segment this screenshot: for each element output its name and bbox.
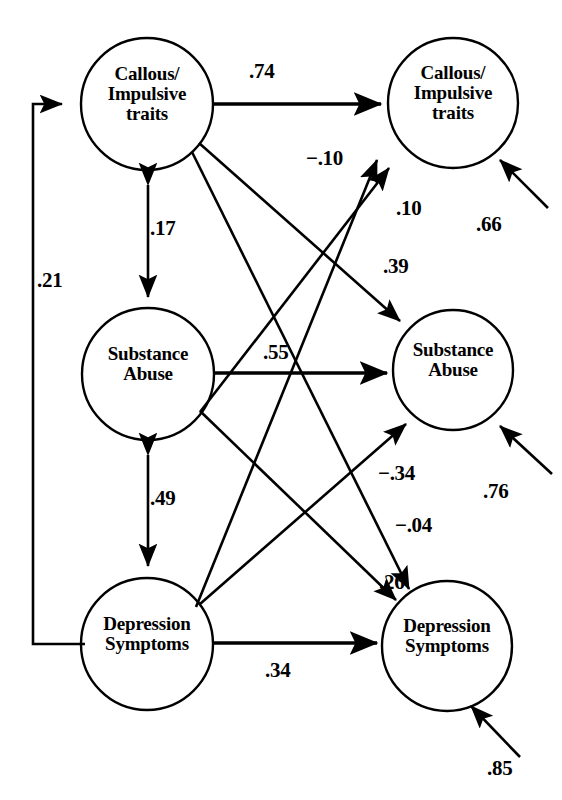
path-arrow-depression-to-substance [200,424,406,604]
path-arrow-callous-to-substance [199,143,400,321]
coefficient-label-correlation-substance-depression: .49 [150,486,175,511]
residual-arrow-t2-depression [471,706,520,757]
coefficient-label-residual-t2-substance: .76 [483,479,508,504]
coefficient-label-substance-to-callous: .10 [396,196,421,221]
coefficient-label-residual-t2-callous: .66 [476,212,501,237]
coefficient-label-residual-t2-depression: .85 [487,756,512,781]
coefficient-label-callous-to-depression: −.04 [395,513,432,538]
coefficient-label-substance-autoregressive: .55 [263,340,288,365]
node-t1-depression-symptoms[interactable] [81,578,213,710]
node-t2-depression-symptoms[interactable] [382,581,512,711]
path-diagram: Callous/ Impulsive traits Substance Abus… [0,0,562,800]
coefficient-label-callous-autoregressive: .74 [249,59,274,84]
residual-arrow-t2-substance [500,426,552,474]
coefficient-label-depression-to-callous: −.10 [306,146,343,171]
coefficient-label-depression-autoregressive: .34 [265,658,290,683]
path-arrow-callous-to-depression [192,152,409,589]
node-t2-substance-abuse[interactable] [393,310,513,430]
correlation-depression-callous-loop [33,104,85,644]
node-t2-callous-impulsive-traits[interactable] [388,38,518,168]
path-arrow-substance-to-callous [200,168,389,412]
residual-arrow-t2-callous [500,160,548,208]
coefficient-label-correlation-depression-callous: .21 [37,268,62,293]
coefficient-label-correlation-callous-substance: .17 [150,216,175,241]
coefficient-label-depression-to-substance: −.34 [378,461,415,486]
coefficient-label-callous-to-substance: .39 [383,254,408,279]
coefficient-label-substance-to-depression: .26 [379,570,404,595]
node-t1-substance-abuse[interactable] [82,308,214,440]
node-t1-callous-impulsive-traits[interactable] [81,38,213,170]
